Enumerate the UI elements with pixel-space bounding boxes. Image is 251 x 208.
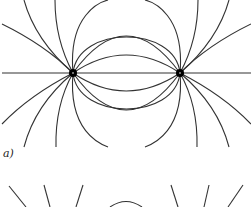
field-line-panel-b-3 <box>76 185 83 207</box>
field-line-outer-right-2 <box>180 0 229 73</box>
field-line-panel-b-7 <box>228 185 243 207</box>
field-line-outer-left-5 <box>24 73 73 147</box>
field-line-panel-b-1 <box>9 186 26 207</box>
field-line-outer-left-2 <box>24 0 73 73</box>
field-line-outer-right-5 <box>180 73 229 147</box>
field-line-outer-right-3 <box>180 0 198 73</box>
right-charge-center <box>179 72 181 74</box>
field-line-inner-lower-1 <box>73 73 180 91</box>
field-line-inner-upper-4b <box>145 0 181 73</box>
field-line-inner-upper-4a <box>72 0 108 73</box>
field-line-panel-b-2 <box>44 185 50 207</box>
left-charge-center <box>72 72 74 74</box>
panel-label: a) <box>3 147 14 160</box>
field-line-outer-left-3 <box>55 0 73 73</box>
field-line-outer-right-6 <box>180 73 197 147</box>
field-line-panel-b-5 <box>171 185 178 207</box>
field-line-panel-b-4 <box>110 202 142 208</box>
field-lines-diagram <box>0 0 251 207</box>
field-line-inner-lower-4a <box>72 73 108 147</box>
field-line-panel-b-6 <box>204 185 209 207</box>
field-line-inner-upper-1 <box>73 55 180 73</box>
field-line-inner-lower-4b <box>145 73 181 147</box>
field-line-outer-left-6 <box>56 73 73 147</box>
